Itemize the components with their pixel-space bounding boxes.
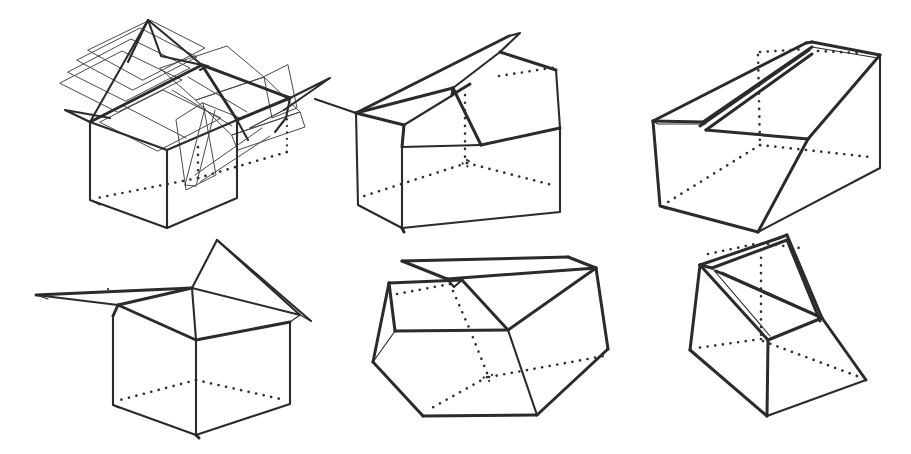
figure-canvas: Six line-drawing views of an open cardbo… (0, 0, 911, 454)
figure-background (0, 0, 911, 454)
box-sequence-figure (0, 0, 911, 454)
